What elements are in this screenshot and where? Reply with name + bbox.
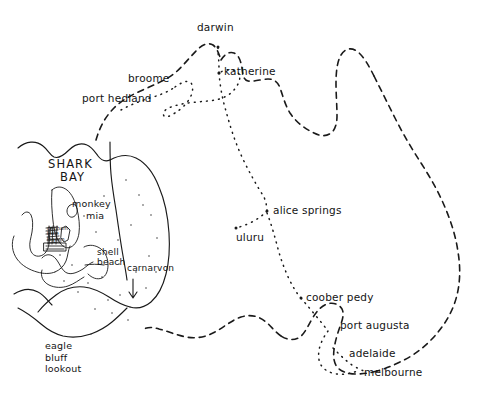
label-monkey-mia-line2: mia (86, 210, 111, 222)
label-uluru: uluru (236, 232, 264, 243)
label-shell-beach-line2: beach (97, 258, 125, 268)
marker-katherine (217, 71, 220, 74)
marker-coober-pedy (300, 297, 303, 300)
coastline-great-australian-bight (144, 316, 281, 338)
label-eagle-bluff-line1: eagle (45, 340, 81, 352)
marker-alice-springs (266, 210, 269, 213)
label-shark-bay: SHARK BAY (48, 158, 93, 184)
label-coober-pedy: coober pedy (306, 292, 374, 303)
inset-lower-connector (91, 308, 127, 334)
label-shell-beach: shell beach (97, 248, 125, 268)
label-eagle-bluff-line3: lookout (45, 363, 81, 375)
route-alice-to-uluru (236, 211, 267, 228)
inset-south-tail (18, 308, 91, 337)
marker-uluru (235, 227, 238, 230)
label-broome: broome (128, 73, 170, 84)
carnarvon-arrow (129, 279, 137, 298)
label-eagle-bluff-lookout: eagle bluff lookout (45, 340, 81, 375)
label-alice-springs: alice springs (273, 205, 342, 216)
label-port-hedland: port hedland (82, 93, 152, 104)
label-port-augusta: port augusta (340, 320, 410, 331)
city-markers (217, 46, 303, 300)
label-shark-bay-line1: SHARK (48, 158, 93, 171)
label-denham-line3: lagoon (47, 237, 68, 242)
label-shark-bay-line2: BAY (60, 171, 93, 184)
label-adelaide: adelaide (349, 348, 396, 359)
inner-bay-shore (55, 246, 70, 272)
label-carnarvon: carnarvon (127, 264, 174, 274)
label-denham-cluster: denham little lagoon (47, 226, 68, 242)
coastline-top-end (221, 49, 374, 136)
coastline-south-east (281, 303, 377, 374)
marker-darwin (217, 46, 220, 49)
route-darwin-south-to-alice (219, 73, 267, 211)
label-eagle-bluff-line2: bluff (45, 352, 81, 364)
inset-south-east-coast (38, 287, 130, 312)
label-melbourne: melbourne (364, 367, 422, 378)
label-darwin: darwin (197, 22, 234, 33)
sketch-map-canvas: darwin katherine broome port hedland ali… (0, 0, 496, 417)
route-broome-inland-loop (163, 74, 239, 117)
label-monkey-mia-line1: monkey (72, 198, 111, 210)
south-inner-shore (41, 270, 84, 287)
label-katherine: katherine (224, 66, 276, 77)
label-monkey-mia: monkey mia (72, 198, 111, 221)
route-alice-to-coober-pedy (267, 213, 301, 298)
